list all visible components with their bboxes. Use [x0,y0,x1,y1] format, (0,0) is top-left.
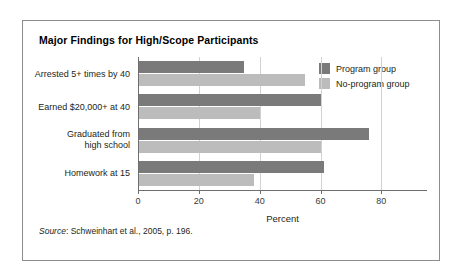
category-label: Arrested 5+ times by 40 [35,68,130,79]
bar-no-program-group [138,74,305,86]
x-tick-label-60: 60 [316,196,326,206]
category-label: Graduated fromhigh school [67,129,130,151]
source-citation: : Schweinhart et al., 2005, p. 196. [66,226,193,236]
chart-title: Major Findings for High/Scope Participan… [39,34,258,46]
x-tick-label-40: 40 [255,196,265,206]
x-tick-label-0: 0 [135,196,140,206]
figure-frame: Major Findings for High/Scope Participan… [22,20,440,261]
x-tick-mark-80 [381,190,382,194]
category-label: Homework at 15 [64,168,130,179]
x-tick-mark-60 [321,190,322,194]
x-tick-mark-20 [199,190,200,194]
x-tick-label-80: 80 [376,196,386,206]
x-axis-line [138,190,427,191]
plot-area: Arrested 5+ times by 40Earned $20,000+ a… [138,57,427,190]
category-label: Earned $20,000+ at 40 [38,101,130,112]
bar-no-program-group [138,107,260,119]
bar-no-program-group [138,141,321,153]
category-group: Homework at 15 [138,157,427,190]
bar-program-group [138,94,321,106]
x-tick-label-20: 20 [194,196,204,206]
y-axis-line [138,57,139,191]
bar-program-group [138,128,369,140]
source-label: Source [39,226,66,236]
x-tick-mark-40 [260,190,261,194]
source-note: Source: Schweinhart et al., 2005, p. 196… [39,226,193,236]
bar-program-group [138,61,244,73]
x-axis-title: Percent [138,213,427,224]
bar-no-program-group [138,174,254,186]
category-group: Graduated fromhigh school [138,124,427,157]
category-group: Arrested 5+ times by 40 [138,57,427,90]
bar-program-group [138,161,324,173]
category-group: Earned $20,000+ at 40 [138,90,427,123]
x-tick-mark-0 [138,190,139,194]
